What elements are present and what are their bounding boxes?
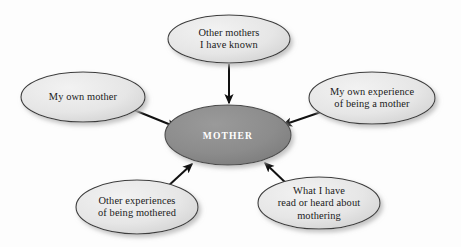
node-ellipse-my-own-experience[interactable] [309, 72, 435, 124]
node-ellipse-other-experiences-mothered[interactable] [76, 180, 198, 234]
node-ellipse-read-or-heard[interactable] [258, 177, 380, 229]
node-layer [21, 15, 435, 234]
node-ellipse-mother-center[interactable] [165, 105, 291, 165]
arrow-right [283, 112, 321, 125]
concept-map-svg [0, 0, 461, 247]
diagram-canvas: Other mothers I have known My own mother… [0, 0, 461, 247]
node-ellipse-my-own-mother[interactable] [21, 72, 145, 122]
node-ellipse-other-mothers-known[interactable] [168, 15, 290, 63]
